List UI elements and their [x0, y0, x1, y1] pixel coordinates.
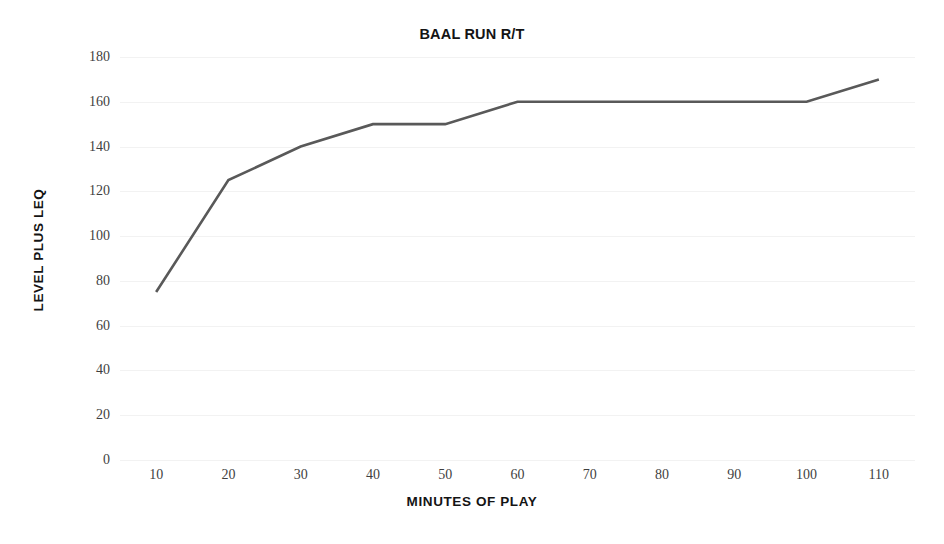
x-tick-label: 10 [126, 466, 186, 484]
y-tick-label: 0 [66, 453, 110, 467]
series-polyline [156, 79, 879, 292]
y-axis-title: LEVEL PLUS LEQ [28, 40, 50, 460]
x-tick-label: 40 [343, 466, 403, 484]
y-tick-label: 80 [66, 274, 110, 288]
x-tick-label: 30 [271, 466, 331, 484]
chart-title: BAAL RUN R/T [0, 26, 944, 42]
y-tick-label: 120 [66, 184, 110, 198]
y-tick-label: 60 [66, 319, 110, 333]
x-tick-label: 20 [198, 466, 258, 484]
chart-container: BAAL RUN R/T LEVEL PLUS LEQ MINUTES OF P… [0, 0, 944, 544]
x-tick-label: 100 [777, 466, 837, 484]
y-tick-label: 100 [66, 229, 110, 243]
x-axis-tick-labels: 102030405060708090100110 [120, 466, 915, 488]
y-tick-label: 160 [66, 95, 110, 109]
gridline [120, 460, 915, 461]
x-axis-title: MINUTES OF PLAY [0, 494, 944, 509]
x-tick-label: 110 [849, 466, 909, 484]
x-tick-label: 80 [632, 466, 692, 484]
y-tick-label: 140 [66, 140, 110, 154]
x-tick-label: 60 [488, 466, 548, 484]
x-tick-label: 90 [704, 466, 764, 484]
y-tick-label: 180 [66, 50, 110, 64]
x-tick-label: 50 [415, 466, 475, 484]
x-tick-label: 70 [560, 466, 620, 484]
y-axis-tick-labels: 020406080100120140160180 [62, 57, 110, 460]
series-line-chart [120, 57, 915, 460]
plot-area [120, 57, 915, 460]
y-tick-label: 40 [66, 363, 110, 377]
y-tick-label: 20 [66, 408, 110, 422]
